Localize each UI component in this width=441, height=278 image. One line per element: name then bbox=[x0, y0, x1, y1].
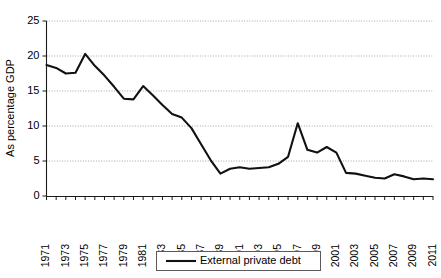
x-tick-label-1979: 1979 bbox=[117, 244, 129, 268]
line-chart: 0510152025 As percentage GDP 19711973197… bbox=[0, 0, 441, 278]
y-tick-label-15: 15 bbox=[27, 84, 39, 96]
y-tick-label-25: 25 bbox=[27, 14, 39, 26]
x-tick-label-1971: 1971 bbox=[39, 244, 51, 268]
legend: External private debt bbox=[157, 252, 321, 271]
x-tick-label-2009: 2009 bbox=[406, 244, 418, 268]
x-tick-label-2005: 2005 bbox=[368, 244, 380, 268]
x-tick-label-1973: 1973 bbox=[59, 244, 71, 268]
x-tick-label-1981: 1981 bbox=[136, 244, 148, 268]
x-tick-label-2011: 2011 bbox=[426, 244, 438, 267]
y-tick-label-10: 10 bbox=[27, 119, 39, 131]
series-group bbox=[47, 54, 434, 179]
x-tick-label-2003: 2003 bbox=[348, 244, 360, 268]
y-tick-label-20: 20 bbox=[27, 49, 39, 61]
legend-label-external-private-debt: External private debt bbox=[200, 254, 301, 266]
y-axis: 0510152025 As percentage GDP bbox=[4, 14, 47, 201]
x-tick-label-1977: 1977 bbox=[97, 244, 109, 268]
chart-container: 0510152025 As percentage GDP 19711973197… bbox=[0, 0, 441, 278]
y-tick-label-5: 5 bbox=[33, 154, 39, 166]
gridlines bbox=[47, 21, 434, 161]
y-axis-title: As percentage GDP bbox=[4, 59, 16, 157]
x-tick-label-2007: 2007 bbox=[387, 244, 399, 268]
x-tick-label-1975: 1975 bbox=[78, 244, 90, 268]
series-external-private-debt bbox=[47, 54, 434, 179]
y-tick-label-0: 0 bbox=[33, 189, 39, 201]
x-tick-label-2001: 2001 bbox=[329, 244, 341, 268]
